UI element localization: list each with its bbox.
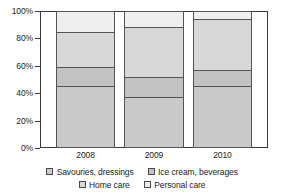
y-axis: 100% 80% 60% 40% 20% 0%	[0, 11, 33, 148]
x-axis: 2008 2009 2010	[40, 150, 268, 164]
legend-item-ice-cream-beverages[interactable]: Ice cream, beverages	[148, 167, 238, 177]
bar-segment-savouries-dressings[interactable]	[124, 97, 183, 148]
bar-segment-savouries-dressings[interactable]	[56, 86, 115, 148]
legend-item-personal-care[interactable]: Personal care	[144, 180, 206, 190]
legend-swatch-icon	[46, 168, 53, 175]
stacked-bar[interactable]	[193, 11, 252, 148]
legend-row: Savouries, dressings Ice cream, beverage…	[0, 165, 284, 178]
legend-item-home-care[interactable]: Home care	[79, 180, 130, 190]
legend-item-savouries-dressings[interactable]: Savouries, dressings	[46, 167, 133, 177]
y-axis-label: 60%	[16, 61, 33, 71]
y-axis-label: 100%	[12, 6, 33, 16]
legend-label: Home care	[89, 180, 130, 190]
bar-segment-ice-cream-beverages[interactable]	[193, 70, 252, 86]
legend-label: Savouries, dressings	[57, 167, 134, 177]
legend-label: Personal care	[154, 180, 205, 190]
legend-row: Home care Personal care	[0, 178, 284, 191]
bar-group-2009	[124, 11, 183, 148]
bar-segment-ice-cream-beverages[interactable]	[124, 77, 183, 98]
legend-swatch-icon	[144, 181, 151, 188]
bar-group-2010	[193, 11, 252, 148]
x-axis-label-2008: 2008	[76, 150, 95, 160]
bar-segment-savouries-dressings[interactable]	[193, 86, 252, 148]
y-axis-label: 20%	[16, 116, 33, 126]
legend-swatch-icon	[148, 168, 155, 175]
x-axis-label-2010: 2010	[213, 150, 232, 160]
stacked-bar[interactable]	[124, 11, 183, 148]
bar-group-2008	[56, 11, 115, 148]
bar-segment-home-care[interactable]	[193, 19, 252, 70]
bar-segment-ice-cream-beverages[interactable]	[56, 67, 115, 86]
y-axis-label: 0%	[21, 143, 33, 153]
y-axis-tick	[35, 148, 40, 149]
bar-segment-personal-care[interactable]	[56, 11, 115, 32]
chart-legend: Savouries, dressings Ice cream, beverage…	[0, 165, 284, 191]
bar-segment-home-care[interactable]	[124, 27, 183, 76]
y-axis-label: 40%	[16, 88, 33, 98]
stacked-bar[interactable]	[56, 11, 115, 148]
stacked-bar-chart: 100% 80% 60% 40% 20% 0%	[0, 0, 284, 195]
bar-segment-home-care[interactable]	[56, 32, 115, 68]
bars-layer	[40, 11, 268, 148]
bar-segment-personal-care[interactable]	[193, 11, 252, 19]
y-axis-label: 80%	[16, 33, 33, 43]
x-axis-label-2009: 2009	[145, 150, 164, 160]
bar-segment-personal-care[interactable]	[124, 11, 183, 27]
legend-label: Ice cream, beverages	[158, 167, 238, 177]
legend-swatch-icon	[79, 181, 86, 188]
